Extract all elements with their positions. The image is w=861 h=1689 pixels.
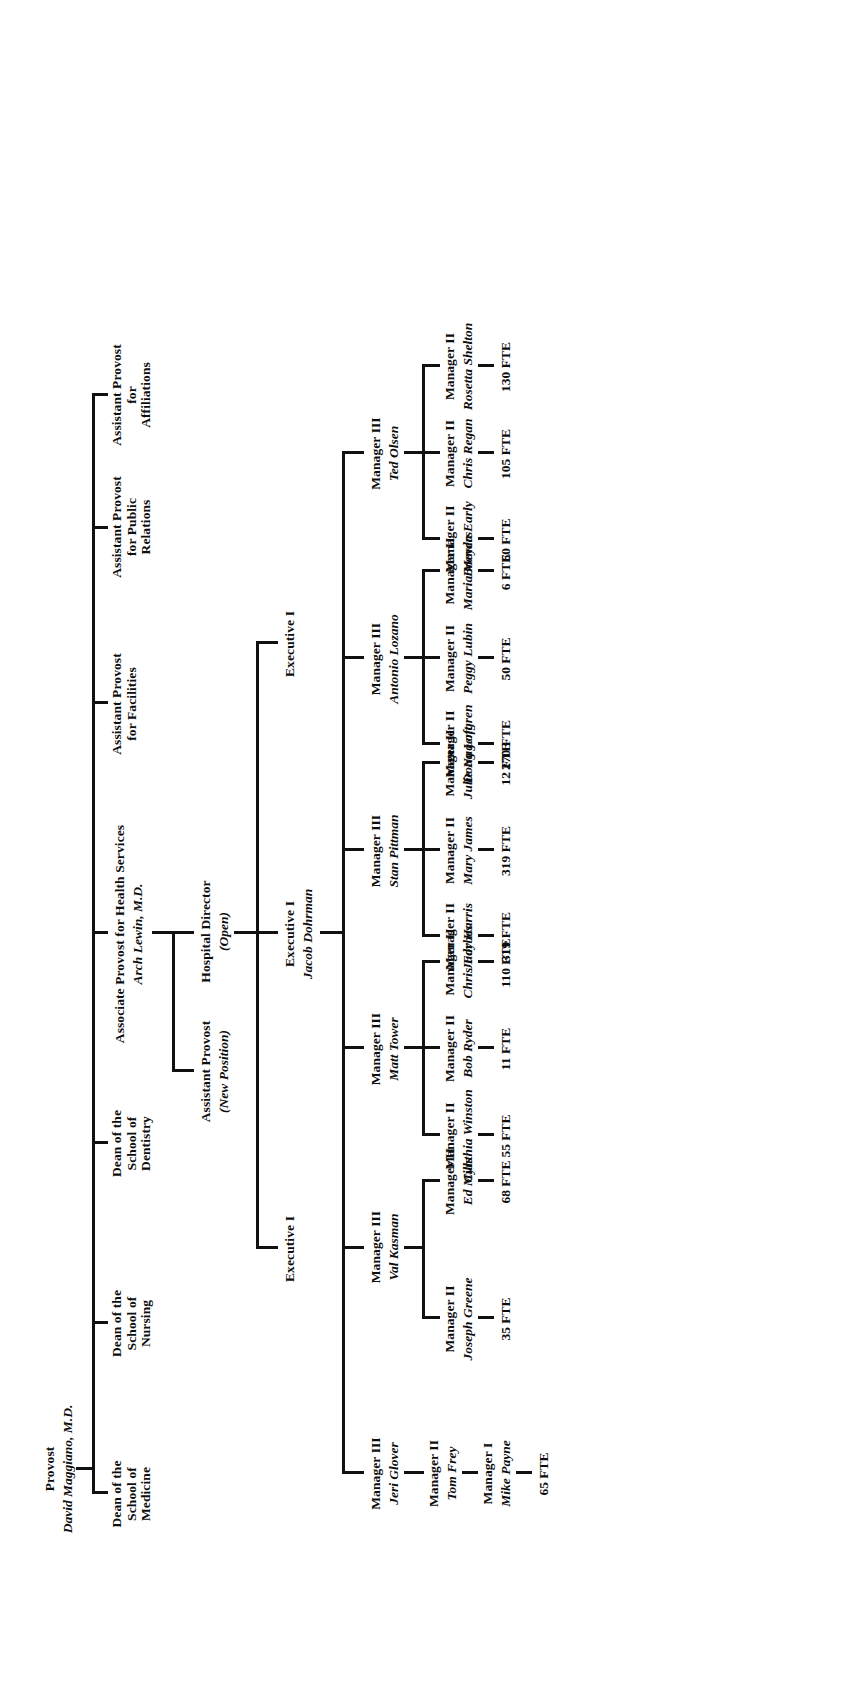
- node-m3-antonio-lozano[interactable]: Manager III Antonio Lozano: [366, 584, 401, 734]
- node-m2-tom-frey[interactable]: Manager II Tom Frey: [424, 1406, 459, 1541]
- node-dean-nursing[interactable]: Dean of the School of Nursing: [110, 1256, 154, 1391]
- node-associate-provost[interactable]: Associate Provost for Health Services Ar…: [110, 779, 145, 1089]
- connector-mary-fte-tick: [478, 848, 494, 851]
- node-ap-new-title: Assistant Provost: [198, 1021, 213, 1123]
- node-ap-new-name: (New Position): [216, 1030, 231, 1113]
- node-m2-judy-fte-value: 319 FTE: [498, 912, 513, 962]
- connector-drop-cynthia: [422, 1133, 440, 1136]
- node-m3-ted-olsen[interactable]: Manager III Ted Olsen: [366, 386, 401, 521]
- node-m2-joseph-fte: 35 FTE: [496, 1264, 514, 1374]
- connector-drop-judy: [422, 934, 440, 937]
- node-m3-matt-title: Manager III: [368, 1013, 383, 1085]
- connector-provost-stem: [76, 1467, 92, 1470]
- node-hospital-director-name: (Open): [216, 912, 231, 951]
- node-m2-brenda-fte-value: 60 FTE: [498, 518, 513, 561]
- node-m3-matt-tower[interactable]: Manager III Matt Tower: [366, 979, 401, 1119]
- connector-drop-maria: [422, 569, 440, 572]
- connector-brenda-fte-tick: [478, 537, 494, 540]
- connector-drop-dean-dentistry: [92, 1141, 108, 1144]
- connector-hospital-director-stem: [234, 931, 256, 934]
- connector-drop-exec-top: [256, 641, 278, 644]
- connector-drop-ed: [422, 1179, 440, 1182]
- node-dean-nursing-line1: Dean of the: [110, 1256, 125, 1391]
- connector-joseph-fte-tick: [478, 1316, 494, 1319]
- connector-drop-exec-bottom: [256, 1246, 278, 1249]
- node-dean-dentistry-line1: Dean of the: [110, 1076, 125, 1211]
- node-m3-jeri-title: Manager III: [368, 1437, 383, 1509]
- connector-drop-assoc-provost: [92, 931, 108, 934]
- org-chart-canvas: Provost David Maggiano, M.D. Dean of the…: [0, 0, 861, 1689]
- node-m3-stan-pittman[interactable]: Manager III Stan Pittman: [366, 781, 401, 921]
- connector-drop-rosetta: [422, 364, 440, 367]
- node-dean-medicine-line1: Dean of the: [110, 1424, 125, 1564]
- node-associate-provost-name: Arch Lewin, M.D.: [130, 884, 145, 985]
- connector-drop-m3-matt: [342, 1046, 364, 1049]
- node-ap-public-relations[interactable]: Assistant Provost for Public Relations: [110, 453, 154, 601]
- node-m3-jeri-name: Jeri Glover: [386, 1442, 401, 1505]
- node-m2-joseph-greene[interactable]: Manager II Joseph Greene: [440, 1249, 475, 1389]
- connector-ed-fte-tick: [478, 1179, 494, 1182]
- connector-matt-stem: [404, 1046, 422, 1049]
- connector-drop-m3-stan: [342, 848, 364, 851]
- node-ap-facilities-line2: for Facilities: [125, 629, 140, 779]
- node-m1-mike-title: Manager I: [480, 1443, 495, 1505]
- connector-drop-m3-val: [342, 1246, 364, 1249]
- connector-drop-ap-new: [172, 1069, 194, 1072]
- connector-drop-exec-dohrman: [256, 931, 278, 934]
- node-m2-chris-regan-fte-value: 105 FTE: [498, 429, 513, 479]
- node-m2-joseph-name: Joseph Greene: [460, 1278, 475, 1361]
- node-dean-nursing-line2: School of: [125, 1256, 140, 1391]
- node-m3-stan-title: Manager III: [368, 815, 383, 887]
- connector-drop-bob: [422, 1046, 440, 1049]
- node-m1-mike-payne[interactable]: Manager I Mike Payne: [478, 1406, 513, 1541]
- node-ap-public-line2: for Public: [125, 453, 140, 601]
- node-dean-dentistry[interactable]: Dean of the School of Dentistry: [110, 1076, 154, 1211]
- connector-drop-brenda: [422, 537, 440, 540]
- connector-drop-dean-nursing: [92, 1321, 108, 1324]
- connector-provost-spine: [92, 394, 95, 1494]
- node-dean-dentistry-line3: Dentistry: [139, 1076, 154, 1211]
- node-m2-mary-fte-value: 319 FTE: [498, 826, 513, 876]
- connector-ted-stem: [404, 451, 422, 454]
- node-m2-rosetta-title: Manager II: [442, 333, 457, 400]
- node-m2-rosetta-fte-value: 130 FTE: [498, 342, 513, 392]
- connector-chris-forbes-fte-tick: [478, 960, 494, 963]
- connector-stan-stem: [404, 848, 422, 851]
- node-m3-val-title: Manager III: [368, 1211, 383, 1283]
- node-ap-affiliations[interactable]: Assistant Provost for Affiliations: [110, 321, 154, 469]
- node-m3-ted-title: Manager III: [368, 417, 383, 489]
- node-executive-dohrman-title: Executive I: [282, 901, 297, 967]
- node-m3-ted-name: Ted Olsen: [386, 426, 401, 481]
- connector-drop-dean-medicine: [92, 1491, 108, 1494]
- node-m2-cynthia-fte-value: 55 FTE: [498, 1114, 513, 1157]
- connector-drop-chris-regan: [422, 451, 440, 454]
- node-dean-medicine-line2: School of: [125, 1424, 140, 1564]
- node-m2-peggy-fte-value: 50 FTE: [498, 637, 513, 680]
- node-executive-bottom[interactable]: Executive I: [280, 1179, 298, 1319]
- node-m3-val-kasman[interactable]: Manager III Val Kasman: [366, 1177, 401, 1317]
- node-m3-matt-name: Matt Tower: [386, 1017, 401, 1081]
- node-m2-bob-fte-value: 11 FTE: [498, 1028, 513, 1070]
- node-provost-title: Provost: [42, 1447, 57, 1492]
- node-provost[interactable]: Provost David Maggiano, M.D.: [40, 1369, 75, 1569]
- connector-drop-doug: [422, 742, 440, 745]
- connector-assoc-provost-stem: [152, 931, 172, 934]
- node-m2-tom-title: Manager II: [426, 1440, 441, 1507]
- node-dean-medicine[interactable]: Dean of the School of Medicine: [110, 1424, 154, 1564]
- node-m1-mike-fte-value: 65 FTE: [536, 1452, 551, 1495]
- node-ap-affiliations-line2: for: [125, 321, 140, 469]
- node-hospital-director[interactable]: Hospital Director (Open): [196, 834, 231, 1029]
- node-ap-public-line3: Relations: [139, 453, 154, 601]
- connector-val-spine: [422, 1179, 425, 1319]
- node-m3-antonio-title: Manager III: [368, 623, 383, 695]
- node-m3-val-name: Val Kasman: [386, 1213, 401, 1280]
- node-executive-dohrman[interactable]: Executive I Jacob Dohrman: [280, 859, 315, 1009]
- connector-rosetta-fte-tick: [478, 364, 494, 367]
- node-executive-top-title: Executive I: [282, 611, 297, 677]
- connector-jeri-to-tom: [404, 1471, 424, 1474]
- connector-cynthia-fte-tick: [478, 1133, 494, 1136]
- node-m2-rosetta-shelton[interactable]: Manager II Rosetta Shelton: [440, 289, 475, 444]
- node-ap-facilities[interactable]: Assistant Provost for Facilities: [110, 629, 139, 779]
- node-m3-jeri-glover[interactable]: Manager III Jeri Glover: [366, 1406, 401, 1541]
- node-executive-top[interactable]: Executive I: [280, 574, 298, 714]
